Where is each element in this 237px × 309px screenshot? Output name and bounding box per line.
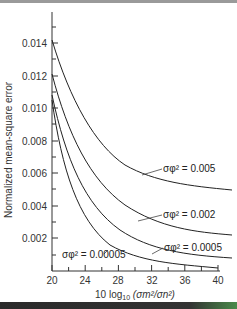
y-tick-label: 0.006 bbox=[22, 168, 47, 179]
x-axis-title: 10 log10 (σm²/σn²) bbox=[95, 289, 175, 301]
label-0.00005: σφ² = 0.00005 bbox=[62, 249, 126, 260]
y-ticks bbox=[52, 27, 58, 255]
x-tick-label: 28 bbox=[112, 275, 124, 286]
curve-0.0005 bbox=[52, 95, 232, 258]
y-tick-label: 0.008 bbox=[22, 136, 47, 147]
x-tick-label: 36 bbox=[179, 275, 191, 286]
x-tick-label: 32 bbox=[146, 275, 158, 286]
y-tick-label: 0.010 bbox=[22, 103, 47, 114]
leader-lines bbox=[104, 169, 163, 254]
label-0.0005: σφ² = 0.0005 bbox=[164, 242, 222, 253]
y-tick-label: 0.002 bbox=[22, 233, 47, 244]
y-tick-labels: 0.002 0.004 0.006 0.008 0.010 0.012 0.01… bbox=[22, 38, 47, 244]
y-tick-label: 0.012 bbox=[22, 71, 47, 82]
x-tick-label: 20 bbox=[46, 275, 58, 286]
x-tick-label: 40 bbox=[212, 275, 224, 286]
chart: 0.002 0.004 0.006 0.008 0.010 0.012 0.01… bbox=[0, 0, 237, 309]
x-tick-labels: 20 24 28 32 36 40 bbox=[46, 275, 224, 286]
y-tick-label: 0.014 bbox=[22, 38, 47, 49]
bottom-border bbox=[0, 302, 237, 309]
y-tick-label: 0.004 bbox=[22, 201, 47, 212]
y-axis-title: Normalized mean-square error bbox=[3, 81, 14, 218]
curves bbox=[52, 40, 232, 268]
x-tick-label: 24 bbox=[79, 275, 91, 286]
label-0.002: σφ² = 0.002 bbox=[163, 209, 216, 220]
label-0.005: σφ² = 0.005 bbox=[163, 163, 216, 174]
